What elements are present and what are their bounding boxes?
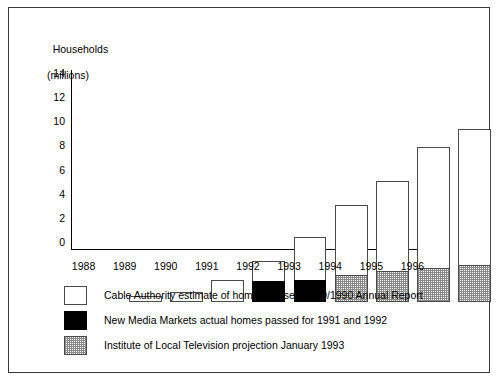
- legend-item-stipple: Institute of Local Television projection…: [64, 333, 464, 358]
- chart-legend: Cable Authority estimate of homes passed…: [64, 283, 464, 358]
- x-tick-1990: 1990: [154, 260, 177, 272]
- legend-label-black: New Media Markets actual homes passed fo…: [104, 314, 387, 327]
- legend-item-white: Cable Authority estimate of homes passed…: [64, 283, 464, 308]
- y-tick-6: 6: [59, 164, 65, 175]
- x-tick-1995: 1995: [360, 260, 383, 272]
- x-tick-1993: 1993: [277, 260, 300, 272]
- bar-1996: [458, 129, 491, 302]
- legend-label-white: Cable Authority estimate of homes passed…: [104, 289, 423, 302]
- x-tick-1989: 1989: [113, 260, 136, 272]
- y-tick-10: 10: [53, 116, 65, 127]
- x-tick-1992: 1992: [236, 260, 259, 272]
- x-tick-1996: 1996: [401, 260, 424, 272]
- y-axis-tick-labels: 14121086420: [39, 8, 65, 383]
- legend-label-stipple: Institute of Local Television projection…: [104, 339, 344, 352]
- y-tick-14: 14: [53, 68, 65, 79]
- y-tick-4: 4: [59, 188, 65, 199]
- chart-figure-frame: Households (millions) 14121086420 198819…: [8, 7, 490, 373]
- legend-swatch-white: [64, 286, 87, 305]
- bar-1995: [417, 147, 450, 302]
- x-tick-1994: 1994: [319, 260, 342, 272]
- y-tick-0: 0: [59, 237, 65, 248]
- x-tick-1991: 1991: [195, 260, 218, 272]
- y-tick-8: 8: [59, 140, 65, 151]
- y-tick-2: 2: [59, 212, 65, 223]
- legend-item-black: New Media Markets actual homes passed fo…: [64, 308, 464, 333]
- legend-swatch-black: [64, 311, 87, 330]
- x-tick-1988: 1988: [72, 260, 95, 272]
- y-tick-12: 12: [53, 92, 65, 103]
- legend-swatch-stipple: [64, 336, 87, 355]
- bar-series-group: [71, 68, 441, 249]
